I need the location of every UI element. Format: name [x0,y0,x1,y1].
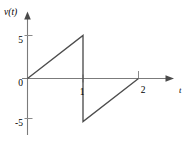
y-tick-label-0-wrap: 0 [13,72,23,90]
x-tick-label-1: 1 [80,87,85,97]
x-tick-label-1-wrap: 1 [76,81,88,99]
y-tick-label-neg5: -5 [15,118,23,128]
x-axis-label: t [179,79,181,97]
y-tick-label-neg5-wrap: -5 [7,112,23,130]
y-axis-label-text: v(t) [4,7,17,17]
x-tick-label-2: 2 [141,85,146,95]
x-axis-arrowhead [166,75,175,82]
y-tick-label-5: 5 [18,35,23,45]
y-axis-arrowhead [24,12,31,20]
y-tick-label-0: 0 [18,78,23,88]
y-tick-label-5-wrap: 5 [13,29,23,47]
sawtooth-waveform-figure: v(t) t 5 0 -5 1 2 [0,0,190,148]
x-axis-label-text: t [179,85,181,95]
x-tick-label-2-wrap: 2 [137,79,149,97]
chart-canvas [0,0,190,148]
y-axis-label: v(t) [4,1,17,19]
